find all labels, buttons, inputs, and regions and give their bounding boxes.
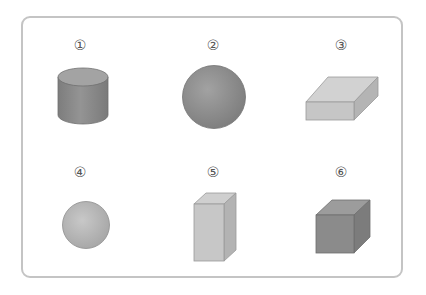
label-5: ⑤ [160, 165, 266, 179]
sphere-small-icon [61, 200, 111, 250]
label-6: ⑥ [288, 165, 394, 179]
cylinder-icon [55, 65, 111, 127]
label-3: ③ [288, 38, 394, 52]
sphere-large-icon [181, 64, 247, 130]
cube-icon [314, 197, 372, 255]
label-2: ② [160, 38, 266, 52]
label-4: ④ [27, 165, 133, 179]
tall-rectangular-prism-icon [192, 191, 238, 263]
label-1: ① [27, 38, 133, 52]
flat-rectangular-prism-icon [304, 72, 380, 122]
